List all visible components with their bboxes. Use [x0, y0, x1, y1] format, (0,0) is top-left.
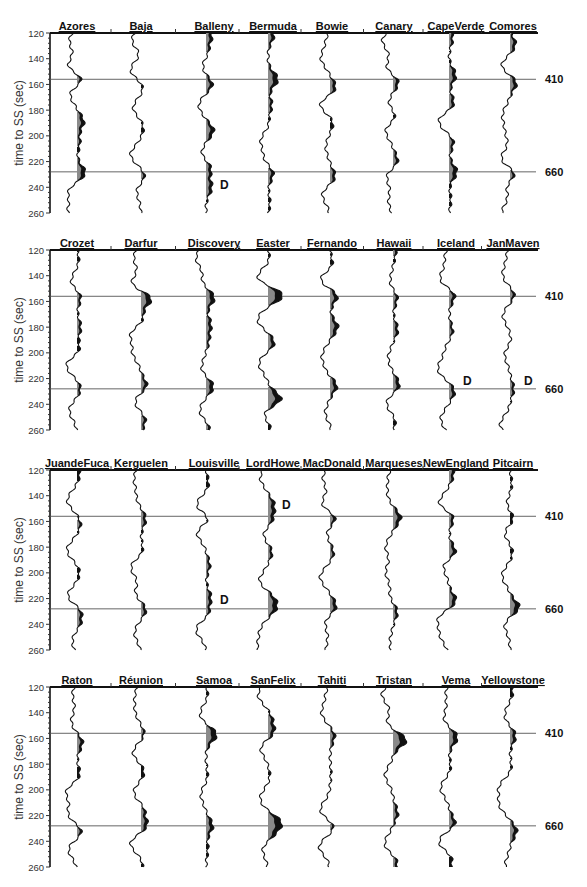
y-axis-label: time to SS (sec)	[12, 734, 26, 819]
panel-3: 120140160180200220240260time to SS (sec)…	[12, 457, 563, 656]
trace-newengland	[437, 470, 457, 650]
y-tick-label: 140	[28, 707, 44, 718]
panel-4: 120140160180200220240260time to SS (sec)…	[12, 674, 563, 873]
y-tick-label: 240	[28, 836, 44, 847]
station-title: Comores	[489, 20, 537, 32]
y-tick-label: 260	[28, 425, 44, 436]
y-tick-label: 220	[28, 373, 44, 384]
y-tick-label: 160	[28, 296, 44, 307]
y-tick-label: 220	[28, 593, 44, 604]
station-title: Tahiti	[318, 674, 347, 686]
y-tick-label: 260	[28, 645, 44, 656]
trace-comores	[501, 33, 517, 213]
y-tick-label: 220	[28, 156, 44, 167]
station-title: CapeVerde	[428, 20, 485, 32]
station-title: JuandeFuca	[45, 457, 110, 469]
station-title: Easter	[256, 237, 290, 249]
trace-janmaven	[499, 250, 515, 430]
station-title: MacDonald	[303, 457, 362, 469]
y-axis-label: time to SS (sec)	[12, 297, 26, 382]
y-tick-label: 140	[28, 53, 44, 64]
y-tick-label: 200	[28, 130, 44, 141]
station-title: Samoa	[196, 674, 233, 686]
trace-iceland	[438, 250, 457, 430]
y-axis-label: time to SS (sec)	[12, 517, 26, 602]
panel-1: 120140160180200220240260time to SS (sec)…	[12, 20, 563, 219]
station-title: Fernando	[307, 237, 357, 249]
station-title: Balleny	[194, 20, 234, 32]
station-title: Réunion	[119, 674, 163, 686]
station-title: SanFelix	[250, 674, 296, 686]
y-tick-label: 260	[28, 208, 44, 219]
ref-label-660: 660	[545, 603, 563, 615]
station-title: Louisville	[189, 457, 240, 469]
seismogram-figure: 120140160180200220240260time to SS (sec)…	[0, 0, 587, 887]
station-title: Iceland	[437, 237, 475, 249]
station-title: Yellowstone	[481, 674, 545, 686]
station-title: Marqueses	[365, 457, 422, 469]
trace-bermuda	[260, 33, 279, 213]
station-title: Darfur	[124, 237, 158, 249]
y-tick-label: 240	[28, 399, 44, 410]
y-tick-label: 180	[28, 105, 44, 116]
trace-réunion	[130, 687, 149, 867]
y-tick-label: 120	[28, 28, 44, 39]
station-title: Bowie	[316, 20, 348, 32]
station-title: Crozet	[60, 237, 95, 249]
trace-discovery	[196, 250, 215, 430]
y-tick-label: 220	[28, 810, 44, 821]
trace-samoa	[199, 687, 216, 867]
trace-darfur	[129, 250, 151, 430]
trace-tristan	[381, 687, 407, 867]
station-title: LordHowe	[246, 457, 300, 469]
y-tick-label: 180	[28, 322, 44, 333]
y-tick-label: 200	[28, 784, 44, 795]
ref-label-410: 410	[545, 73, 563, 85]
trace-marqueses	[385, 470, 403, 650]
ref-label-660: 660	[545, 166, 563, 178]
d-marker: D	[463, 374, 472, 388]
station-title: Baja	[129, 20, 153, 32]
y-tick-label: 260	[28, 862, 44, 873]
d-marker: D	[524, 374, 533, 388]
ref-label-410: 410	[545, 727, 563, 739]
station-title: Pitcairn	[493, 457, 534, 469]
trace-raton	[65, 687, 84, 867]
trace-tahiti	[318, 687, 336, 867]
y-tick-label: 160	[28, 516, 44, 527]
station-title: NewEngland	[423, 457, 489, 469]
trace-bowie	[319, 33, 335, 213]
y-tick-label: 200	[28, 347, 44, 358]
d-marker: D	[282, 498, 291, 512]
y-tick-label: 240	[28, 182, 44, 193]
trace-hawaii	[386, 250, 400, 430]
trace-baja	[130, 33, 146, 213]
d-marker: D	[220, 178, 229, 192]
trace-vema	[439, 687, 458, 867]
trace-louisville	[196, 470, 212, 650]
station-title: JanMaven	[486, 237, 539, 249]
station-title: Raton	[61, 674, 92, 686]
y-tick-label: 160	[28, 733, 44, 744]
y-tick-label: 120	[28, 465, 44, 476]
ref-label-660: 660	[545, 383, 563, 395]
y-tick-label: 180	[28, 759, 44, 770]
trace-canary	[381, 33, 399, 213]
y-tick-label: 140	[28, 490, 44, 501]
ref-label-410: 410	[545, 510, 563, 522]
trace-kerguelen	[131, 470, 147, 650]
station-title: Discovery	[188, 237, 241, 249]
trace-pitcairn	[502, 470, 521, 650]
ref-label-410: 410	[545, 290, 563, 302]
ref-label-660: 660	[545, 820, 563, 832]
trace-macdonald	[319, 470, 337, 650]
y-tick-label: 180	[28, 542, 44, 553]
station-title: Bermuda	[249, 20, 298, 32]
trace-sanfelix	[257, 687, 282, 867]
panel-2: 120140160180200220240260time to SS (sec)…	[12, 237, 563, 436]
station-title: Vema	[442, 674, 472, 686]
d-marker: D	[220, 593, 229, 607]
station-title: Tristan	[376, 674, 412, 686]
trace-yellowstone	[497, 687, 518, 867]
y-tick-label: 160	[28, 79, 44, 90]
